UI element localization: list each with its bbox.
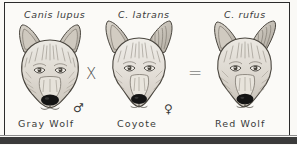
scientific-name-gray-wolf: Canis lupus [24, 9, 85, 20]
equals-operator: = [188, 63, 202, 83]
sex-symbol-male-gray-wolf: ♂ [73, 101, 84, 115]
sex-symbol-female-coyote: ♀ [164, 102, 173, 116]
scientific-name-red-wolf: C. rufus [224, 9, 266, 20]
figure-container: Canis lupus [0, 0, 297, 145]
illustration-coyote-head [100, 20, 178, 114]
figure-bottom-bar [0, 137, 297, 144]
common-name-gray-wolf: Gray Wolf [18, 118, 74, 129]
common-name-coyote: Coyote [117, 118, 157, 129]
cross-operator: X [86, 65, 96, 83]
scientific-name-coyote: C. latrans [118, 9, 170, 20]
illustration-red-wolf-head [204, 20, 286, 114]
figure-baseline-rule [0, 135, 297, 136]
common-name-red-wolf: Red Wolf [215, 118, 266, 129]
